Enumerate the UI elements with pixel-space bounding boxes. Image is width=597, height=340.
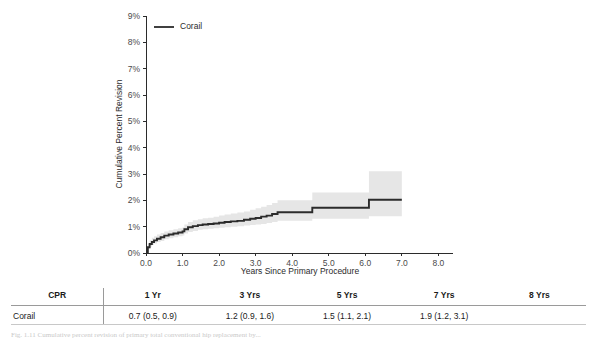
- table-cell-1yr: 0.7 (0.5, 0.9): [104, 306, 202, 325]
- x-tick-label: 0.0: [140, 258, 152, 268]
- table-cell-5yrs: 1.5 (1.1, 2.1): [299, 306, 396, 325]
- y-tick-label: 8%: [128, 37, 141, 47]
- chart-figure: 0%1%2%3%4%5%6%7%8%9% 0.01.02.03.04.05.06…: [0, 0, 597, 285]
- table-header: CPR 1 Yr 3 Yrs 5 Yrs 7 Yrs 8 Yrs: [11, 288, 586, 306]
- figure-caption: Fig. 1.11 Cumulative percent revision of…: [11, 330, 586, 340]
- table-cell-8yrs: [493, 306, 586, 325]
- table-cell-3yrs: 1.2 (0.9, 1.6): [201, 306, 298, 325]
- x-tick-label: 7.0: [396, 258, 408, 268]
- y-tick-label: 6%: [128, 90, 141, 100]
- y-tick-label: 0%: [128, 248, 141, 258]
- table-header-5yrs: 5 Yrs: [299, 288, 396, 306]
- y-axis-title: Cumulative Percent Revision: [114, 79, 124, 188]
- x-axis-title: Years Since Primary Procedure: [241, 266, 360, 276]
- y-tick-label: 3%: [128, 169, 141, 179]
- table-header-7yrs: 7 Yrs: [396, 288, 493, 306]
- y-tick-label: 4%: [128, 143, 141, 153]
- table-header-3yrs: 3 Yrs: [201, 288, 298, 306]
- legend-label-corail: Corail: [180, 21, 202, 31]
- table-cell-row-label: Corail: [11, 306, 104, 325]
- y-tick-label: 2%: [128, 195, 141, 205]
- revision-curve-chart: 0%1%2%3%4%5%6%7%8%9% 0.01.02.03.04.05.06…: [0, 0, 597, 285]
- x-tick-label: 1.0: [177, 258, 189, 268]
- y-tick-label: 1%: [128, 222, 141, 232]
- y-axis-ticks: 0%1%2%3%4%5%6%7%8%9%: [128, 11, 146, 258]
- table-body: Corail 0.7 (0.5, 0.9) 1.2 (0.9, 1.6) 1.5…: [11, 306, 586, 325]
- table-cell-7yrs: 1.9 (1.2, 3.1): [396, 306, 493, 325]
- y-tick-label: 7%: [128, 64, 141, 74]
- x-tick-label: 2.0: [213, 258, 225, 268]
- table-header-cpr: CPR: [11, 288, 104, 306]
- table-header-8yrs: 8 Yrs: [493, 288, 586, 306]
- cpr-summary-table: CPR 1 Yr 3 Yrs 5 Yrs 7 Yrs 8 Yrs Corail …: [11, 288, 586, 325]
- y-tick-label: 9%: [128, 11, 141, 21]
- y-tick-label: 5%: [128, 116, 141, 126]
- table-header-1yr: 1 Yr: [104, 288, 202, 306]
- table-header-row: CPR 1 Yr 3 Yrs 5 Yrs 7 Yrs 8 Yrs: [11, 288, 586, 306]
- x-tick-label: 8.0: [432, 258, 444, 268]
- x-tick-label: 6.0: [359, 258, 371, 268]
- table-row: Corail 0.7 (0.5, 0.9) 1.2 (0.9, 1.6) 1.5…: [11, 306, 586, 325]
